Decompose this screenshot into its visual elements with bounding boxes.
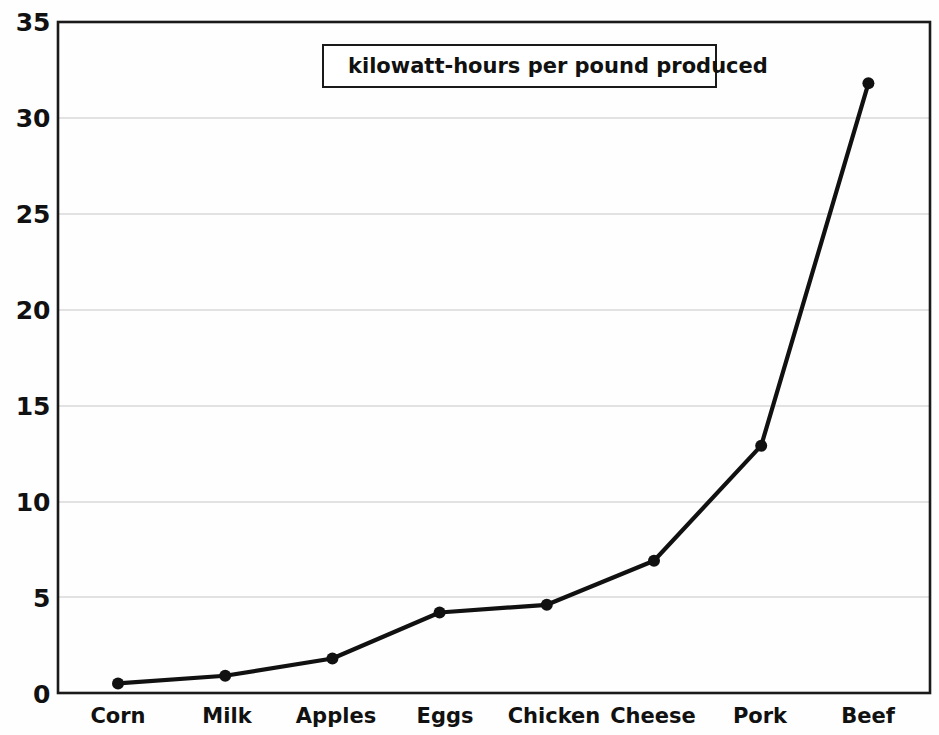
plot-border xyxy=(58,22,930,693)
data-point-apples xyxy=(326,652,338,664)
data-point-eggs xyxy=(434,606,446,618)
x-category-label-pork: Pork xyxy=(733,706,787,727)
x-category-label-corn: Corn xyxy=(90,706,145,727)
gridlines xyxy=(58,118,930,597)
data-line xyxy=(118,83,868,683)
chart-legend: kilowatt-hours per pound produced xyxy=(322,44,717,88)
data-point-milk xyxy=(219,670,231,682)
x-category-label-eggs: Eggs xyxy=(417,706,474,727)
data-point-chicken xyxy=(541,599,553,611)
x-category-label-cheese: Cheese xyxy=(610,706,696,727)
x-category-label-beef: Beef xyxy=(841,706,895,727)
plot-area xyxy=(0,0,939,735)
data-point-cheese xyxy=(648,555,660,567)
legend-label: kilowatt-hours per pound produced xyxy=(348,54,768,78)
data-point-pork xyxy=(755,440,767,452)
data-point-corn xyxy=(112,677,124,689)
x-category-label-chicken: Chicken xyxy=(508,706,601,727)
x-category-label-milk: Milk xyxy=(202,706,251,727)
data-point-beef xyxy=(862,77,874,89)
x-category-label-apples: Apples xyxy=(296,706,376,727)
line-chart: 35 30 25 20 15 10 5 0 kilowatt-hours per… xyxy=(0,0,939,735)
